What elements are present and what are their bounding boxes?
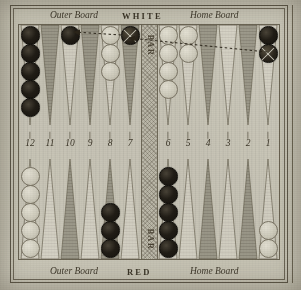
bottom-home-board-label: Home Board	[190, 266, 238, 276]
bottom-outer-board-label: Outer Board	[50, 266, 98, 276]
point-21[interactable]	[198, 159, 218, 259]
checker-black-point-19[interactable]	[159, 239, 178, 258]
checker-black-point-19[interactable]	[159, 203, 178, 222]
bar-label-bottom: BAR	[145, 229, 154, 251]
point-18[interactable]	[120, 159, 140, 259]
point-number-6: 6	[158, 138, 178, 148]
checker-black-point-12[interactable]	[21, 26, 40, 45]
checker-black-point-19[interactable]	[159, 221, 178, 240]
point-number-3: 3	[218, 138, 238, 148]
checker-black-point-19[interactable]	[159, 185, 178, 204]
checker-black-point-17[interactable]	[101, 203, 120, 222]
checker-white-point-5[interactable]	[179, 44, 198, 63]
point-number-12: 12	[20, 138, 40, 148]
checker-white-point-8[interactable]	[101, 44, 120, 63]
point-16[interactable]	[80, 159, 100, 259]
point-11[interactable]	[40, 25, 60, 125]
point-14[interactable]	[40, 159, 60, 259]
point-number-9: 9	[80, 138, 100, 148]
top-home-board-label: Home Board	[190, 10, 238, 20]
point-number-7: 7	[120, 138, 140, 148]
checker-black-point-1[interactable]	[259, 44, 278, 63]
point-22[interactable]	[218, 159, 238, 259]
checker-black-point-12[interactable]	[21, 80, 40, 99]
checker-white-point-13[interactable]	[21, 221, 40, 240]
backgammon-diagram: Outer Board WHITE Home Board Outer Board…	[0, 0, 301, 290]
point-number-8: 8	[100, 138, 120, 148]
checker-white-point-13[interactable]	[21, 185, 40, 204]
checker-white-point-13[interactable]	[21, 203, 40, 222]
checker-white-point-24[interactable]	[259, 221, 278, 240]
point-number-5: 5	[178, 138, 198, 148]
point-20[interactable]	[178, 159, 198, 259]
point-15[interactable]	[60, 159, 80, 259]
checker-black-point-1[interactable]	[259, 26, 278, 45]
top-player-label-white: WHITE	[122, 11, 163, 21]
checker-black-point-17[interactable]	[101, 221, 120, 240]
top-outer-board-label: Outer Board	[50, 10, 98, 20]
point-3[interactable]	[218, 25, 238, 125]
point-number-11: 11	[40, 138, 60, 148]
checker-black-point-7[interactable]	[121, 26, 140, 45]
checker-white-point-5[interactable]	[179, 26, 198, 45]
page-right-rule	[292, 5, 293, 283]
checker-white-point-8[interactable]	[101, 26, 120, 45]
checker-black-point-12[interactable]	[21, 62, 40, 81]
point-4[interactable]	[198, 25, 218, 125]
checker-white-point-6[interactable]	[159, 26, 178, 45]
checker-black-point-12[interactable]	[21, 44, 40, 63]
point-23[interactable]	[238, 159, 258, 259]
point-number-row: ❘12❘11❘10❘9❘8❘7❘6❘5❘4❘3❘2❘1	[18, 134, 280, 152]
point-number-10: 10	[60, 138, 80, 148]
point-number-2: 2	[238, 138, 258, 148]
checker-black-point-17[interactable]	[101, 239, 120, 258]
bottom-player-label-red: RED	[127, 267, 152, 277]
checker-black-point-10[interactable]	[61, 26, 80, 45]
checker-black-point-12[interactable]	[21, 98, 40, 117]
checker-black-point-19[interactable]	[159, 167, 178, 186]
point-2[interactable]	[238, 25, 258, 125]
checker-white-point-24[interactable]	[259, 239, 278, 258]
checker-white-point-6[interactable]	[159, 62, 178, 81]
checker-white-point-13[interactable]	[21, 167, 40, 186]
point-9[interactable]	[80, 25, 100, 125]
point-number-1: 1	[258, 138, 278, 148]
checker-white-point-8[interactable]	[101, 62, 120, 81]
bar-label-top: BAR	[145, 35, 154, 57]
checker-white-point-13[interactable]	[21, 239, 40, 258]
checker-white-point-6[interactable]	[159, 44, 178, 63]
point-number-4: 4	[198, 138, 218, 148]
checker-white-point-6[interactable]	[159, 80, 178, 99]
